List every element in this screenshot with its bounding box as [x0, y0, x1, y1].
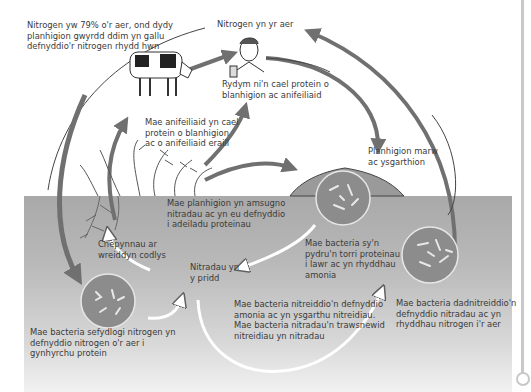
arrow-to-fixing-bacteria [60, 95, 85, 278]
arrow-decomposers-to-nitrates [240, 225, 315, 268]
arrow-humans-to-dead [266, 58, 378, 148]
arrow-animals-to-humans [188, 54, 232, 70]
label-nitrogen-in-air: Nitrogen yn yr aer [217, 19, 293, 30]
bacteria-denitrifying [402, 227, 458, 283]
arrow-plants-to-dead [205, 164, 292, 180]
label-air-fact: Nitrogen yw 79% o'r aer, ond dydy planhi… [27, 20, 173, 52]
label-dead-plants: Planhigion marw ac ysgarthion [368, 146, 438, 167]
label-plants-absorb: Mae planhigion yn amsugno nitradau ac yn… [167, 198, 285, 230]
label-soil-nitrates: Nitradau yn y pridd [190, 262, 239, 283]
arrow-plants-to-animals [109, 122, 125, 220]
label-nitrogen-fixing: Mae bacteria sefydlogi nitrogen yn defny… [30, 327, 176, 359]
label-nitrifying: Mae bacteria nitreiddio'n defnyddio amon… [234, 299, 385, 341]
label-humans: Rydym ni'n cael protein o blanhigion ac … [222, 79, 329, 100]
human-illustration [230, 38, 264, 77]
label-root-nodules: Cnepynnau ar wreiddyn codlys [98, 239, 166, 260]
label-denitrifying: Mae bacteria dadnitreiddio'n defnyddio n… [396, 298, 516, 330]
arrow-fixing-to-nitrates [148, 298, 182, 318]
air-to-soil-line [48, 28, 205, 190]
bacteria-nitrogen-fixing [81, 274, 135, 328]
label-decomposers: Mae bacteria sy'n pydru'n torri proteina… [305, 238, 400, 280]
label-animals: Mae anifeiliaid yn cael protein o blanhi… [145, 117, 239, 149]
bacteria-decomposers [316, 171, 370, 225]
cow-illustration [130, 52, 192, 96]
